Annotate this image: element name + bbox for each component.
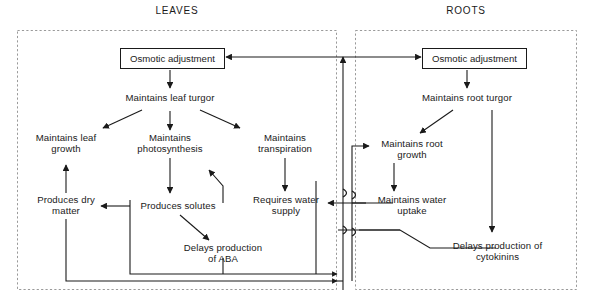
node-maintains-leaf-growth: Maintains leaf growth	[26, 132, 106, 155]
node-leaves-osmotic-adjustment[interactable]: Osmotic adjustment	[120, 48, 225, 69]
node-produces-dry-matter: Produces dry matter	[27, 194, 105, 217]
node-maintains-leaf-turgor: Maintains leaf turgor	[110, 92, 230, 103]
node-maintains-photosynthesis: Maintains photosynthesis	[130, 132, 210, 155]
node-maintains-transpiration: Maintains transpiration	[246, 132, 324, 155]
edge-aba-feedback-to-photosynthesis	[209, 170, 223, 203]
edge-solutes-to-aba	[180, 215, 209, 240]
node-maintains-water-uptake: Maintains water uptake	[367, 194, 457, 217]
diagram-canvas: LEAVES ROOTS	[0, 0, 591, 304]
edge-leaf-turgor-to-transpiration	[200, 110, 240, 128]
node-roots-osmotic-adjustment[interactable]: Osmotic adjustment	[422, 48, 527, 69]
wire-hop-crossings	[343, 189, 356, 236]
edge-leaf-turgor-to-leaf-growth	[103, 110, 142, 128]
node-delays-production-of-cytokinins: Delays production of cytokinins	[440, 240, 555, 263]
node-maintains-root-turgor: Maintains root turgor	[407, 92, 527, 103]
edge-root-turgor-to-root-growth	[420, 110, 453, 133]
node-produces-solutes: Produces solutes	[133, 200, 223, 211]
node-requires-water-supply: Requires water supply	[246, 194, 326, 217]
node-maintains-root-growth: Maintains root growth	[372, 138, 452, 161]
node-delays-production-of-aba: Delays production of ABA	[168, 242, 278, 265]
